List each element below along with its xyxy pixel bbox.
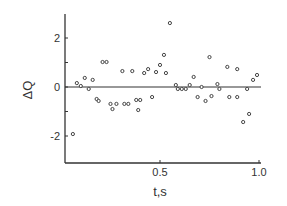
- data-point: [154, 70, 157, 73]
- data-point: [192, 75, 195, 78]
- data-point: [115, 102, 118, 105]
- data-point: [218, 87, 221, 90]
- data-point: [101, 60, 104, 63]
- data-point: [158, 63, 161, 66]
- y-tick-label: 2: [54, 32, 60, 44]
- data-point: [143, 71, 146, 74]
- data-point: [228, 95, 231, 98]
- data-point: [236, 68, 239, 71]
- data-point: [121, 69, 124, 72]
- data-point: [83, 76, 86, 79]
- data-point: [196, 95, 199, 98]
- data-point: [131, 69, 134, 72]
- data-point: [208, 56, 211, 59]
- data-point: [137, 108, 140, 111]
- data-point: [180, 87, 183, 90]
- data-point: [242, 120, 245, 123]
- data-point: [150, 95, 153, 98]
- y-tick-label: 0: [54, 81, 60, 93]
- data-point: [226, 65, 229, 68]
- data-point: [139, 98, 142, 101]
- data-point: [184, 87, 187, 90]
- data-point: [236, 95, 239, 98]
- data-point: [168, 21, 171, 24]
- data-point: [246, 87, 249, 90]
- data-point: [164, 71, 167, 74]
- data-point: [188, 83, 191, 86]
- x-tick-label: 0.5: [152, 166, 167, 178]
- data-markers: [71, 21, 258, 135]
- scatter-chart: 20-2 0.51.0 t,s ΔQ: [0, 0, 287, 206]
- data-point: [248, 112, 251, 115]
- data-point: [87, 87, 90, 90]
- y-tick-label: -2: [50, 130, 60, 142]
- data-point: [111, 107, 114, 110]
- data-point: [147, 68, 150, 71]
- data-point: [162, 53, 165, 56]
- y-axis-title: ΔQ: [20, 81, 35, 100]
- data-point: [204, 99, 207, 102]
- data-point: [91, 78, 94, 81]
- data-point: [255, 73, 258, 76]
- data-point: [75, 81, 78, 84]
- data-point: [216, 82, 219, 85]
- data-point: [200, 85, 203, 88]
- data-point: [174, 83, 177, 86]
- x-tick-label: 1.0: [251, 166, 266, 178]
- data-point: [105, 60, 108, 63]
- data-point: [176, 87, 179, 90]
- data-point: [109, 102, 112, 105]
- axes: [65, 14, 261, 163]
- data-point: [97, 99, 100, 102]
- data-point: [79, 84, 82, 87]
- data-point: [123, 102, 126, 105]
- data-point: [210, 94, 213, 97]
- data-point: [251, 78, 254, 81]
- x-axis-title: t,s: [153, 184, 167, 199]
- data-point: [135, 98, 138, 101]
- data-point: [127, 102, 130, 105]
- data-point: [71, 132, 74, 135]
